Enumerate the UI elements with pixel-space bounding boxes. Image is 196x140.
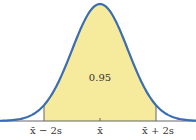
center-tick-label: x̄ [97,125,103,136]
left-tick-label: x̄ − 2s [30,125,62,136]
right-tick-label: x̄ + 2s [142,125,174,136]
shaded-area [44,4,156,121]
normal-curve-chart: 0.95 x̄ − 2s x̄ x̄ + 2s [0,0,196,140]
area-label: 0.95 [89,72,111,83]
